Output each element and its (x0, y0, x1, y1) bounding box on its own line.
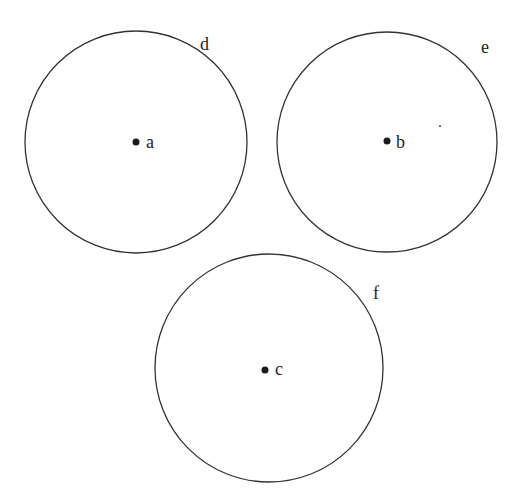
circle-label-e: e (481, 37, 489, 57)
circle-label-d: d (200, 34, 209, 54)
center-label-a: a (146, 132, 154, 152)
center-label-b: b (396, 132, 405, 152)
circle-label-f: f (373, 283, 379, 303)
circle-diagram: a d b e c f (0, 0, 522, 496)
stray-mark (439, 125, 441, 127)
circle-group-f: c f (155, 254, 383, 482)
center-dot-c (262, 367, 269, 374)
circle-group-d: a d (25, 31, 247, 253)
center-dot-b (384, 138, 391, 145)
center-label-c: c (275, 359, 283, 379)
circle-group-e: b e (277, 32, 497, 252)
circle-f (155, 254, 383, 482)
center-dot-a (133, 139, 140, 146)
